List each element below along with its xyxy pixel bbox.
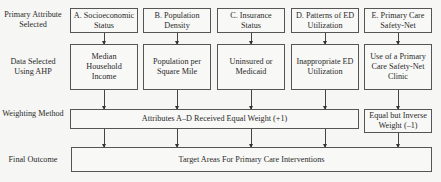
attribute-b-box: B. Population Density [143,8,211,33]
attribute-c-box: C. Insurance Status [217,8,285,33]
arrow-e-2 [398,90,399,109]
arrow-c-2 [251,90,252,109]
attribute-a-box: A. Socioeconomic Status [70,8,138,33]
arrow-d-1 [325,33,326,44]
arrow-d-3 [325,129,326,147]
arrow-a-2 [104,90,105,109]
arrow-b-2 [177,90,178,109]
row-label-weighting: Weighting Method [0,109,66,119]
arrow-b-1 [177,33,178,44]
attribute-d-box: D. Patterns of ED Utilization [291,8,359,33]
row-label-data: Data Selected Using AHP [0,57,66,77]
weighting-inverse-box: Equal but Inverse Weight (–1) [364,109,432,133]
data-a-box: Median Household Income [70,44,138,90]
arrow-e-3 [398,133,399,147]
arrow-a-3 [104,129,105,147]
attribute-e-box: E. Primary Care Safety-Net [364,8,432,33]
arrow-c-3 [251,129,252,147]
arrow-a-1 [104,33,105,44]
data-e-box: Use of a Primary Care Safety-Net Clinic [364,44,432,90]
arrow-b-3 [177,129,178,147]
row-label-outcome: Final Outcome [0,155,66,165]
arrow-c-1 [251,33,252,44]
arrow-e-1 [398,33,399,44]
data-d-box: Inappropriate ED Utilization [291,44,359,90]
outcome-box: Target Areas For Primary Care Interventi… [71,147,432,172]
data-b-box: Population per Square Mile [143,44,211,90]
row-label-primary: Primary Attribute Selected [0,10,66,30]
data-c-box: Uninsured or Medicaid [217,44,285,90]
arrow-d-2 [325,90,326,109]
weighting-equal-box: Attributes A–D Received Equal Weight (+1… [70,109,359,129]
